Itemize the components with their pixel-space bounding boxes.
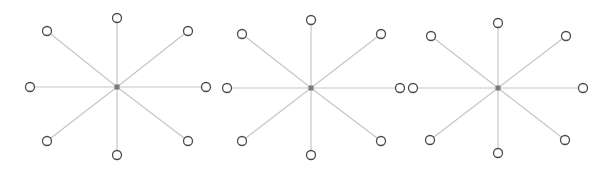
leaf-node — [494, 19, 503, 28]
edge — [498, 36, 566, 88]
edge — [47, 87, 117, 141]
hub-node — [496, 86, 501, 91]
leaf-node — [184, 27, 193, 36]
leaf-node — [238, 30, 247, 39]
leaf-node — [579, 84, 588, 93]
leaf-node — [426, 136, 435, 145]
hub-node — [309, 86, 314, 91]
star-graph-1 — [26, 14, 211, 160]
leaf-node — [113, 151, 122, 160]
leaf-node — [202, 83, 211, 92]
edge — [311, 34, 381, 88]
leaf-node — [409, 84, 418, 93]
leaf-node — [43, 27, 52, 36]
leaf-node — [307, 151, 316, 160]
leaf-node — [494, 149, 503, 158]
leaf-node — [427, 32, 436, 41]
edge — [242, 34, 311, 88]
edge — [311, 88, 381, 141]
edge — [498, 88, 565, 140]
edge — [117, 31, 188, 87]
leaf-node — [26, 83, 35, 92]
edge — [242, 88, 311, 141]
leaf-node — [561, 136, 570, 145]
leaf-node — [562, 32, 571, 41]
star-graph-3 — [409, 19, 588, 158]
leaf-node — [184, 137, 193, 146]
star-graph-2 — [223, 16, 405, 160]
leaf-node — [307, 16, 316, 25]
edge — [431, 36, 498, 88]
edge — [47, 31, 117, 87]
leaf-node — [43, 137, 52, 146]
leaf-node — [223, 84, 232, 93]
hub-node — [115, 85, 120, 90]
leaf-node — [396, 84, 405, 93]
edge — [117, 87, 188, 141]
leaf-node — [377, 30, 386, 39]
leaf-node — [113, 14, 122, 23]
edge — [430, 88, 498, 140]
leaf-node — [377, 137, 386, 146]
star-graphs-canvas — [0, 0, 612, 169]
leaf-node — [238, 137, 247, 146]
